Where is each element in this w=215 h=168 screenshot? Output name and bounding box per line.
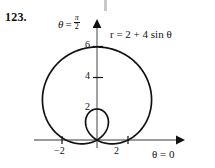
- y-axis-arrowhead: [93, 19, 102, 28]
- figure-page: 123. θ = π 2 r = 2 + 4 sin θ θ = 0 6 4 2…: [0, 0, 215, 168]
- polar-plot: [0, 0, 215, 168]
- x-axis-arrowhead: [176, 136, 185, 145]
